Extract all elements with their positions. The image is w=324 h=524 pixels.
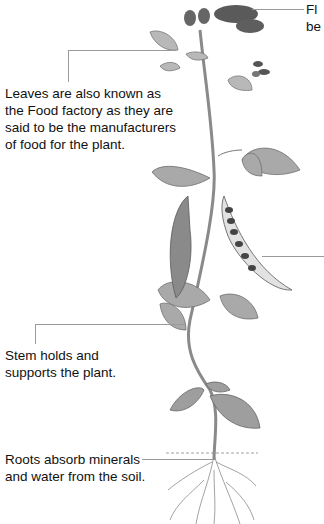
flower-cluster: [184, 5, 270, 77]
pod-leader-line: [262, 256, 324, 257]
leaves-leader-line-h: [68, 50, 176, 51]
flower-label: Fl be: [306, 1, 321, 35]
tendril-arrow: [218, 150, 242, 156]
roots-leader-line: [142, 459, 214, 460]
flower-leader-line: [252, 9, 304, 10]
bean-plant-illustration: [0, 0, 324, 524]
bean-pods: [170, 196, 292, 298]
roots: [168, 455, 256, 524]
leaves-label: Leaves are also known as the Food factor…: [5, 85, 176, 153]
stem-leader-line-v: [35, 324, 36, 344]
roots-label: Roots absorb minerals and water from the…: [5, 451, 145, 485]
stem-label: Stem holds and supports the plant.: [5, 347, 116, 381]
leaves-leader-line-v: [68, 50, 69, 82]
stem-leader-line-h: [35, 324, 185, 325]
